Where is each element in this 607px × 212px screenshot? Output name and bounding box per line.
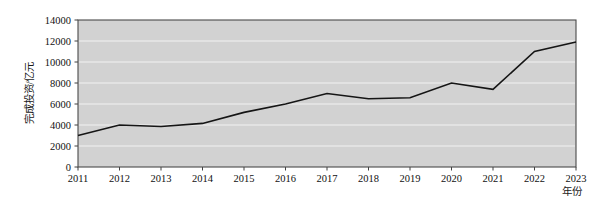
x-axis-tick-label: 2023 xyxy=(566,173,587,184)
chart-canvas: 02000400060008000100001200014000 2011201… xyxy=(0,0,607,212)
y-axis-tick-label: 0 xyxy=(66,162,71,173)
y-axis-tick-label: 4000 xyxy=(50,120,71,131)
x-axis-tick-label: 2022 xyxy=(524,173,545,184)
x-axis-tick-label: 2012 xyxy=(109,173,130,184)
x-axis-tick-label: 2014 xyxy=(192,173,214,184)
y-axis-title: 完成投资/亿元 xyxy=(23,61,35,125)
y-axis-tick-label: 10000 xyxy=(45,57,71,68)
x-axis-tick-label: 2017 xyxy=(317,173,338,184)
y-axis-tick-label: 14000 xyxy=(45,15,71,26)
x-axis-tick-label: 2018 xyxy=(358,173,379,184)
x-axis-tick-label: 2021 xyxy=(483,173,504,184)
x-axis: 2011201220132014201520162017201820192020… xyxy=(68,167,587,184)
y-axis-tick-label: 6000 xyxy=(50,99,71,110)
x-axis-tick-label: 2016 xyxy=(275,173,296,184)
x-axis-title: 年份 xyxy=(562,185,583,197)
y-axis-tick-label: 12000 xyxy=(45,36,71,47)
y-axis-tick-label: 8000 xyxy=(50,78,71,89)
y-axis-tick-label: 2000 xyxy=(50,141,71,152)
x-axis-tick-label: 2019 xyxy=(400,173,421,184)
x-axis-tick-label: 2015 xyxy=(234,173,255,184)
x-axis-tick-label: 2020 xyxy=(441,173,462,184)
x-axis-tick-label: 2011 xyxy=(68,173,89,184)
x-axis-tick-label: 2013 xyxy=(151,173,172,184)
line-chart: 02000400060008000100001200014000 2011201… xyxy=(0,0,607,212)
